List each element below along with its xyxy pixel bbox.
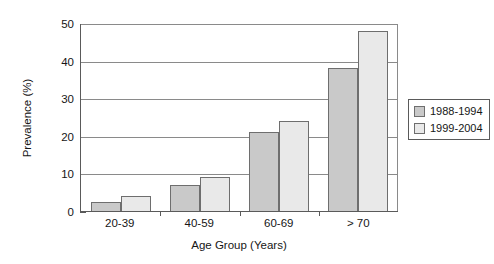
x-axis-label--70: > 70 — [319, 217, 399, 235]
bar-group--70 — [319, 24, 398, 211]
plot-area — [80, 24, 398, 212]
legend: 1988-1994 1999-2004 — [408, 99, 490, 140]
bar-60-69-series-0 — [249, 132, 279, 211]
bar-20-39-series-1 — [121, 196, 151, 211]
y-tick-label-10: 10 — [61, 168, 74, 180]
y-axis-title-container: Prevalence (%) — [18, 24, 38, 212]
y-tick-label-30: 30 — [61, 93, 74, 105]
legend-label-1: 1999-2004 — [430, 122, 483, 134]
x-axis-label-40-59: 40-59 — [160, 217, 240, 235]
x-axis-label-60-69: 60-69 — [239, 217, 319, 235]
x-tick-mark-2 — [240, 211, 241, 216]
y-tick-label-40: 40 — [61, 56, 74, 68]
legend-item-0: 1988-1994 — [414, 105, 483, 117]
y-tick-label-20: 20 — [61, 131, 74, 143]
y-axis-ticks: 01020304050 — [44, 24, 74, 212]
bar-20-39-series-0 — [91, 202, 121, 211]
bar--70-series-0 — [328, 68, 358, 211]
y-tick-label-50: 50 — [61, 18, 74, 30]
y-tick-label-0: 0 — [68, 206, 74, 218]
bar--70-series-1 — [358, 31, 388, 211]
bar-40-59-series-1 — [200, 177, 230, 211]
x-axis-labels: 20-3940-5960-69> 70 — [80, 217, 398, 235]
bar-groups — [81, 24, 398, 211]
bar-40-59-series-0 — [170, 185, 200, 211]
bar-group-20-39 — [81, 24, 160, 211]
x-axis-title: Age Group (Years) — [80, 239, 398, 251]
y-axis-title: Prevalence (%) — [21, 43, 33, 193]
legend-item-1: 1999-2004 — [414, 122, 483, 134]
bar-group-40-59 — [160, 24, 239, 211]
y-tick-mark-0 — [80, 212, 86, 213]
bar-group-60-69 — [240, 24, 319, 211]
legend-label-0: 1988-1994 — [430, 105, 483, 117]
series-0-swatch-icon — [414, 106, 425, 117]
x-tick-mark-3 — [319, 211, 320, 216]
prevalence-bar-chart: Prevalence (%) 01020304050 20-3940-5960-… — [0, 0, 494, 264]
series-1-swatch-icon — [414, 123, 425, 134]
bar-60-69-series-1 — [279, 121, 309, 211]
x-tick-mark-1 — [160, 211, 161, 216]
x-axis-label-20-39: 20-39 — [80, 217, 160, 235]
